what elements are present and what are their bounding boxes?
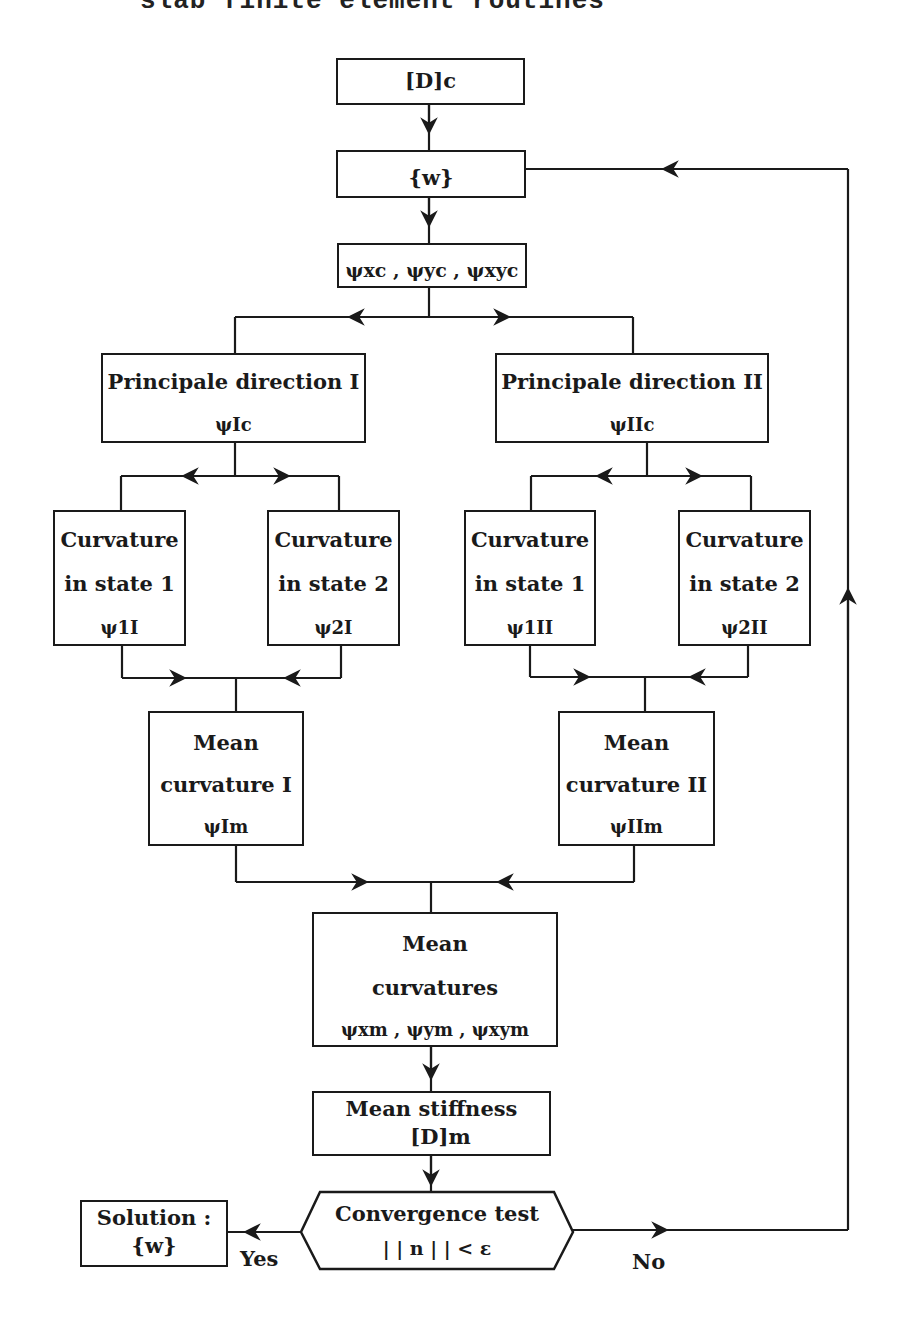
node-mean-curvature-2: Mean curvature II ψIIm [558, 711, 715, 846]
node-curvature-1-state-1-symbol: ψ1I [55, 618, 184, 639]
node-curvature-2-state-1-symbol: ψ1II [466, 618, 594, 639]
node-principal-direction-2-title: Principale direction II [497, 370, 767, 394]
node-solution-line1: Solution : [82, 1206, 226, 1230]
node-mean-curvatures-line1: Mean [314, 932, 556, 956]
node-principal-direction-1-title: Principale direction I [103, 370, 364, 394]
node-curvature-1-state-1-line2: in state 1 [55, 572, 184, 596]
node-curvature-2-state-2: Curvature in state 2 ψ2II [678, 510, 811, 646]
node-curvature-1-state-1: Curvature in state 1 ψ1I [53, 510, 186, 646]
node-curvature-2-state-1-line1: Curvature [466, 528, 594, 552]
node-curvature-1-state-2-line2: in state 2 [269, 572, 398, 596]
node-curvature-2-state-2-symbol: ψ2II [680, 618, 809, 639]
node-displacement: {w} [336, 150, 526, 198]
node-mean-curvature-1-line2: curvature I [150, 773, 302, 797]
node-curvature-2-state-1: Curvature in state 1 ψ1II [464, 510, 596, 646]
node-curvature-2-state-1-line2: in state 1 [466, 572, 594, 596]
node-initial-stiffness-label: [D]c [338, 69, 523, 93]
node-displacement-label: {w} [338, 166, 524, 190]
node-mean-stiffness-line2: [D]m [314, 1125, 549, 1149]
node-curvature-1-state-2: Curvature in state 2 ψ2I [267, 510, 400, 646]
node-curvatures-c: ψxc , ψyc , ψxyc [337, 243, 527, 288]
edge-label-yes: Yes [240, 1246, 278, 1271]
edge-label-no: No [632, 1249, 665, 1274]
node-curvature-2-state-2-line1: Curvature [680, 528, 809, 552]
node-mean-curvature-2-line2: curvature II [560, 773, 713, 797]
node-solution: Solution : {w} [80, 1200, 228, 1267]
node-principal-direction-1: Principale direction I ψIc [101, 353, 366, 443]
node-mean-stiffness-line1: Mean stiffness [314, 1097, 549, 1121]
node-mean-curvature-2-line1: Mean [560, 731, 713, 755]
node-mean-curvatures-line2: curvatures [314, 976, 556, 1000]
node-mean-curvature-1-line1: Mean [150, 731, 302, 755]
node-initial-stiffness: [D]c [336, 58, 525, 105]
node-principal-direction-1-symbol: ψIc [103, 415, 364, 436]
node-curvatures-c-label: ψxc , ψyc , ψxyc [339, 260, 525, 282]
node-mean-curvatures: Mean curvatures ψxm , ψym , ψxym [312, 912, 558, 1047]
node-mean-curvature-1-symbol: ψIm [150, 817, 302, 838]
node-mean-curvature-2-symbol: ψIIm [560, 817, 713, 838]
node-mean-curvature-1: Mean curvature I ψIm [148, 711, 304, 846]
node-curvature-1-state-2-symbol: ψ2I [269, 618, 398, 639]
node-convergence-test-line2: | | n | | < ε [298, 1237, 576, 1259]
node-principal-direction-2-symbol: ψIIc [497, 415, 767, 436]
node-curvature-2-state-2-line2: in state 2 [680, 572, 809, 596]
node-mean-curvatures-symbol: ψxm , ψym , ψxym [314, 1020, 556, 1041]
node-principal-direction-2: Principale direction II ψIIc [495, 353, 769, 443]
node-solution-line2: {w} [82, 1234, 226, 1258]
node-mean-stiffness: Mean stiffness [D]m [312, 1091, 551, 1156]
node-curvature-1-state-1-line1: Curvature [55, 528, 184, 552]
node-convergence-test-line1: Convergence test [298, 1201, 576, 1226]
node-curvature-1-state-2-line1: Curvature [269, 528, 398, 552]
